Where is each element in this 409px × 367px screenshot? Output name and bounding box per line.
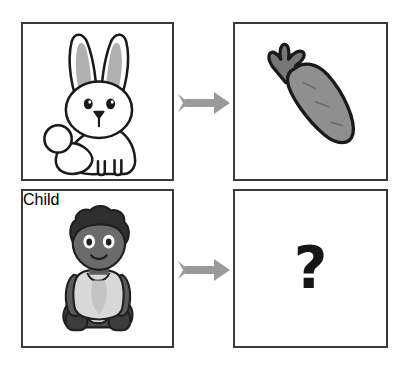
rabbit-eye-right <box>106 98 115 109</box>
rabbit-leg-left <box>98 161 105 175</box>
panel-carrot[interactable]: Carrot <box>233 22 388 181</box>
question-mark-glyph: ? <box>235 238 386 296</box>
arrow-child-question: leads to <box>176 255 232 285</box>
carrot-illustration <box>235 24 386 179</box>
rabbit-illustration <box>23 24 172 179</box>
rabbit-leg-right <box>115 160 122 175</box>
analogy-board: Rabbit leads to Carrot <box>0 0 409 367</box>
arrow-rabbit-carrot: leads to <box>176 88 232 118</box>
rabbit-tail <box>44 125 71 152</box>
panel-child[interactable]: Child <box>21 189 174 348</box>
rabbit-eye-left-glint <box>88 100 91 104</box>
rabbit-eye-left <box>84 98 93 109</box>
rabbit-eye-right-glint <box>111 100 114 104</box>
right-arrow-icon <box>176 255 232 285</box>
panel-question[interactable]: ? <box>233 189 388 348</box>
child-pupil-right <box>106 239 112 246</box>
rabbit-head <box>66 81 132 137</box>
panel-rabbit[interactable]: Rabbit <box>21 22 174 181</box>
child-pupil-left <box>86 239 92 246</box>
child-illustration <box>23 191 172 346</box>
right-arrow-icon <box>176 88 232 118</box>
